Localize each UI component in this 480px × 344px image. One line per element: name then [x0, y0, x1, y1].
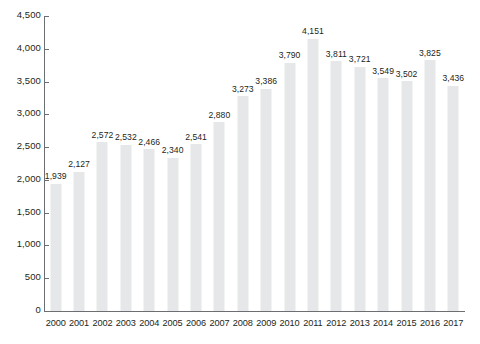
y-axis-tick-label: 500	[25, 271, 41, 282]
x-axis-label: 2015	[395, 318, 418, 328]
x-axis-label: 2014	[371, 318, 394, 328]
bar-chart: 05001,0001,5002,0002,5003,0003,5004,0004…	[0, 0, 480, 344]
x-axis-label: 2002	[91, 318, 114, 328]
y-axis-tick-label: 3,500	[17, 75, 41, 86]
x-axis-label: 2013	[348, 318, 371, 328]
x-axis-label: 2005	[161, 318, 184, 328]
x-axis-label: 2003	[114, 318, 137, 328]
y-axis-tick-label: 1,500	[17, 206, 41, 217]
x-axis-label: 2004	[138, 318, 161, 328]
x-axis-label: 2001	[67, 318, 90, 328]
x-axis-label: 2008	[231, 318, 254, 328]
x-axis-label: 2017	[442, 318, 465, 328]
x-axis-label: 2010	[278, 318, 301, 328]
y-axis-tick-label: 4,500	[17, 9, 41, 20]
y-axis-tick-label: 4,000	[17, 42, 41, 53]
x-axis-label: 2009	[255, 318, 278, 328]
x-axis-label: 2000	[44, 318, 67, 328]
y-axis-tick-label: 3,000	[17, 107, 41, 118]
x-axis-labels: 2000200120022003200420052006200720082009…	[44, 0, 465, 344]
y-axis-tick-label: 0	[36, 304, 41, 315]
x-axis-label: 2016	[418, 318, 441, 328]
y-axis-tick-label: 2,500	[17, 140, 41, 151]
x-axis-label: 2007	[208, 318, 231, 328]
y-axis-tick-label: 1,000	[17, 238, 41, 249]
y-axis-tick-label: 2,000	[17, 173, 41, 184]
x-axis-label: 2011	[301, 318, 324, 328]
x-axis-label: 2012	[325, 318, 348, 328]
x-axis-label: 2006	[184, 318, 207, 328]
